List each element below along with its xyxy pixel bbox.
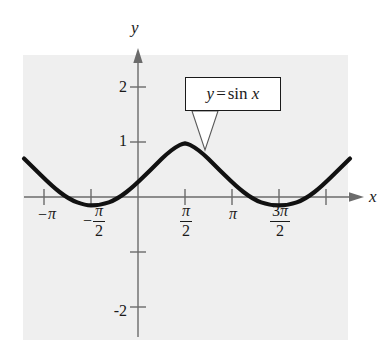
x-tick-label-pi: π xyxy=(218,205,248,223)
equation-operator: = xyxy=(214,84,228,103)
equation-argument: x xyxy=(252,84,260,103)
x-axis-label: x xyxy=(369,187,377,207)
y-axis-label: y xyxy=(131,18,139,38)
sine-graph-figure: y x 2 1 -2 −π −π2 π2 π 3π2 y=sin x xyxy=(0,0,391,352)
y-axis xyxy=(133,48,142,337)
equation-callout-box: y=sin x xyxy=(185,77,281,111)
x-tick-label-minus-pi: −π xyxy=(30,205,64,224)
x-tick-label-3pi-over-2: 3π2 xyxy=(258,203,302,240)
plot-vector-layer xyxy=(0,0,391,352)
equation-callout-text: y=sin x xyxy=(207,84,260,104)
y-tick-label-2: 2 xyxy=(105,78,127,96)
y-tick-label-minus-2: -2 xyxy=(99,302,127,320)
sine-curve xyxy=(24,143,350,205)
x-tick-label-minus-pi-over-2: −π2 xyxy=(72,203,116,240)
callout-pointer xyxy=(192,111,218,150)
x-tick-label-pi-over-2: π2 xyxy=(168,203,204,240)
equation-function: sin xyxy=(228,84,248,103)
y-tick-label-1: 1 xyxy=(105,132,127,150)
